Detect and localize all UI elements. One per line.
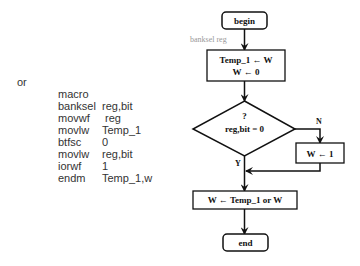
branch-yes-label: Y <box>235 159 241 168</box>
process-line-1: Temp_1 ← W <box>219 55 272 65</box>
flowchart: begin banksel reg Temp_1 ← W W ← 0 ? reg… <box>0 0 360 266</box>
decision-question: ? <box>242 111 247 121</box>
flow-arrow-merge <box>246 163 320 171</box>
process-box-set-one: W ← 1 <box>296 143 344 163</box>
begin-terminal: begin <box>222 12 267 29</box>
begin-label: begin <box>234 16 255 26</box>
branch-no-label: N <box>316 117 322 126</box>
flow-arrow-no <box>295 129 320 143</box>
decision-diamond: ? reg,bit = 0 <box>193 101 295 156</box>
banksel-annotation: banksel reg <box>190 35 227 44</box>
process-box-save-clear: Temp_1 ← W W ← 0 <box>207 50 285 81</box>
process-box-or: W ← Temp_1 or W <box>193 191 297 209</box>
set-one-label: W ← 1 <box>307 149 334 159</box>
diagram-canvas: or macro reg,bit banksel reg movwf Temp_… <box>0 0 360 266</box>
process-line-2: W ← 0 <box>233 67 260 77</box>
decision-condition: reg,bit = 0 <box>225 124 265 134</box>
or-step-label: W ← Temp_1 or W <box>208 195 283 205</box>
end-terminal: end <box>223 234 268 251</box>
end-label: end <box>238 238 252 248</box>
